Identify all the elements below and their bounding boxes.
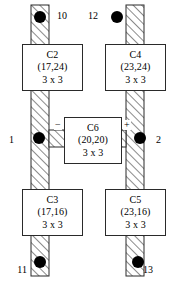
cell-box-c3[interactable]: C3(17,16)3 x 3 xyxy=(22,189,83,236)
pin-label-13: 13 xyxy=(143,265,153,275)
cell-c2-size: 3 x 3 xyxy=(42,74,63,86)
terminal-1[interactable] xyxy=(33,132,45,144)
cell-c2-coords: (17,24) xyxy=(38,61,68,73)
terminal-12[interactable] xyxy=(111,11,123,23)
pin-label-10: 10 xyxy=(57,11,67,21)
pin-label-12: 12 xyxy=(88,11,98,21)
cell-c5-name: C5 xyxy=(130,194,142,206)
cell-c4-coords: (23,24) xyxy=(121,61,151,73)
diagram-canvas: C2(17,24)3 x 3C4(23,24)3 x 3C6(20,20)3 x… xyxy=(0,0,174,281)
cell-c2-name: C2 xyxy=(47,49,59,61)
cell-box-c5[interactable]: C5(23,16)3 x 3 xyxy=(105,189,166,236)
cell-c6-name: C6 xyxy=(87,122,99,134)
cell-c4-name: C4 xyxy=(130,49,142,61)
cell-c5-coords: (23,16) xyxy=(121,206,151,218)
cell-c3-name: C3 xyxy=(47,194,59,206)
cell-box-c2[interactable]: C2(17,24)3 x 3 xyxy=(22,44,83,91)
pin-label-2: 2 xyxy=(156,135,161,145)
terminal-11[interactable] xyxy=(34,256,46,268)
terminal-2[interactable] xyxy=(134,132,146,144)
cell-box-c6[interactable]: C6(20,20)3 x 3 xyxy=(64,117,122,164)
pin-label-11: 11 xyxy=(17,265,27,275)
cell-box-c4[interactable]: C4(23,24)3 x 3 xyxy=(105,44,166,91)
cell-c3-size: 3 x 3 xyxy=(42,219,63,231)
minus-sign: − xyxy=(54,120,62,130)
cell-c6-size: 3 x 3 xyxy=(83,147,104,159)
cell-c3-coords: (17,16) xyxy=(38,206,68,218)
cell-c4-size: 3 x 3 xyxy=(125,74,146,86)
terminal-10[interactable] xyxy=(34,11,46,23)
pin-label-1: 1 xyxy=(9,135,14,145)
net-left-stub xyxy=(49,130,65,147)
cell-c6-coords: (20,20) xyxy=(78,134,108,146)
plus-sign: + xyxy=(123,120,131,130)
cell-c5-size: 3 x 3 xyxy=(125,219,146,231)
